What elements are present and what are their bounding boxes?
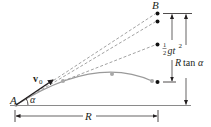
r-text: R: [174, 57, 181, 68]
freefall-points: [156, 12, 160, 85]
label-r-tan-alpha: R tan α: [174, 57, 204, 68]
velocity-symbol: v: [33, 73, 38, 84]
fraction-denominator: 2: [163, 49, 166, 56]
freefall-point: [156, 43, 160, 47]
trajectory-point: [150, 79, 154, 83]
dashed-line-3: [63, 45, 155, 81]
angle-arc: [26, 98, 28, 105]
g-t-text: gt: [168, 45, 176, 56]
label-range: R: [84, 110, 92, 122]
freefall-point: [156, 20, 160, 24]
velocity-subscript: 0: [39, 78, 43, 86]
tan-text: tan: [183, 57, 195, 68]
fraction-numerator: 1: [163, 41, 166, 48]
freefall-point: [156, 80, 160, 84]
label-alpha: α: [30, 94, 36, 105]
projectile-diagram: A B α v 0 R 1 2 gt 2 R tan α: [0, 0, 211, 127]
trajectory-point: [61, 79, 65, 83]
label-half-g-t-squared: 1 2 gt 2: [163, 41, 183, 56]
label-v0: v 0: [33, 73, 43, 86]
exponent: 2: [179, 42, 183, 50]
point-b-dot: [156, 12, 160, 16]
label-a: A: [9, 94, 17, 106]
label-b: B: [152, 0, 159, 11]
alpha-text: α: [198, 57, 204, 68]
trajectory-point: [110, 72, 114, 76]
